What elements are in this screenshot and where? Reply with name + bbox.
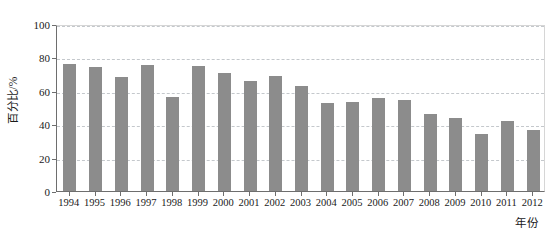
x-tick-mark (223, 192, 224, 196)
y-axis-title-text: 百分比/% (4, 76, 20, 123)
x-tick-mark (481, 192, 482, 196)
x-tick-mark (378, 192, 379, 196)
bar (115, 77, 128, 191)
x-tick-mark (146, 192, 147, 196)
bar (346, 102, 359, 191)
y-tick-label: 20 (10, 153, 50, 165)
x-tick-mark (352, 192, 353, 196)
bar (475, 134, 488, 191)
gridline (57, 26, 544, 27)
bar (527, 130, 540, 191)
bar (192, 66, 205, 191)
bar (501, 121, 514, 191)
x-tick-mark (506, 192, 507, 196)
x-tick-mark (69, 192, 70, 196)
bar (269, 76, 282, 191)
bar (424, 114, 437, 191)
x-tick-mark (198, 192, 199, 196)
bar (398, 100, 411, 191)
bar (449, 118, 462, 191)
x-tick-mark (455, 192, 456, 196)
x-tick-mark (275, 192, 276, 196)
gridline (57, 59, 544, 60)
bar (295, 86, 308, 191)
bar (218, 73, 231, 191)
x-tick-mark (301, 192, 302, 196)
x-tick-mark (95, 192, 96, 196)
y-tick-mark (52, 92, 56, 93)
x-axis-title: 年份 (515, 214, 538, 230)
y-tick-mark (52, 125, 56, 126)
y-tick-label: 40 (10, 119, 50, 131)
x-tick-mark (172, 192, 173, 196)
bar (372, 98, 385, 191)
y-tick-label: 100 (10, 19, 50, 31)
y-tick-mark (52, 58, 56, 59)
bar (244, 81, 257, 191)
bar (321, 103, 334, 192)
x-tick-mark (429, 192, 430, 196)
y-tick-label: 0 (10, 186, 50, 198)
x-tick-mark (403, 192, 404, 196)
y-tick-label: 80 (10, 52, 50, 64)
y-tick-mark (52, 192, 56, 193)
y-tick-label: 60 (10, 86, 50, 98)
bar-chart: 百分比/% 年份 0204060801001994199519961997199… (0, 0, 556, 240)
plot-area (56, 25, 545, 192)
x-tick-mark (532, 192, 533, 196)
y-tick-mark (52, 25, 56, 26)
x-tick-mark (120, 192, 121, 196)
x-tick-mark (249, 192, 250, 196)
x-tick-label: 2012 (515, 197, 549, 208)
bar (166, 97, 179, 191)
x-tick-mark (326, 192, 327, 196)
bar (141, 65, 154, 191)
y-tick-mark (52, 159, 56, 160)
bar (89, 67, 102, 191)
bar (63, 64, 76, 191)
